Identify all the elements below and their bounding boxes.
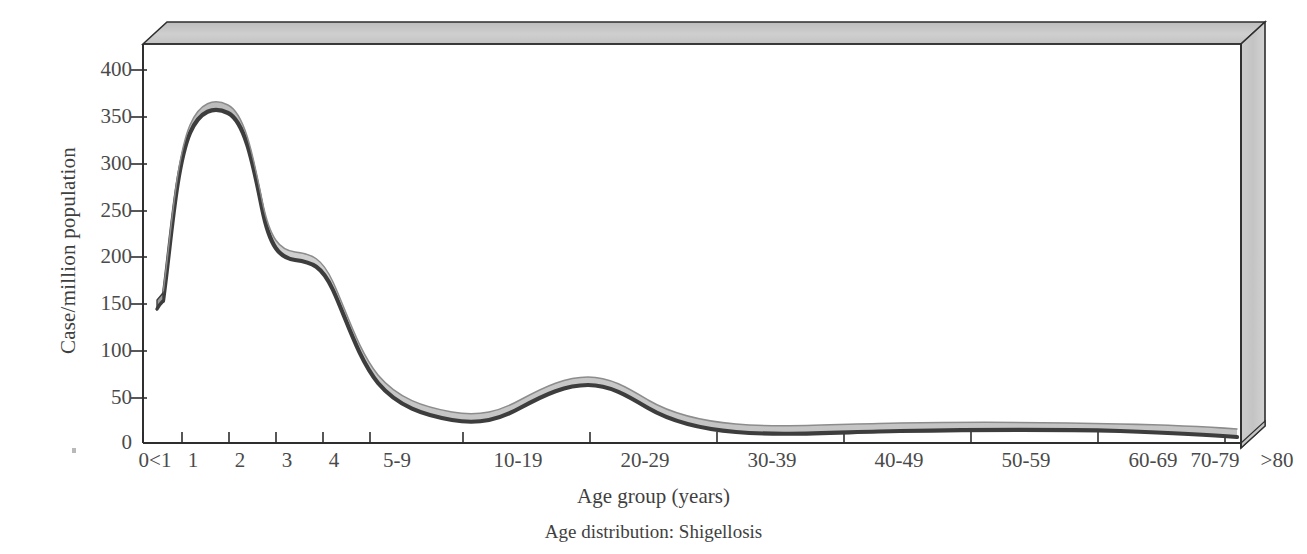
x-tick-label-50-59: 50-59 [1002, 450, 1051, 471]
x-axis-tick-label-group: 0<1 1 2 3 4 5-9 10-19 20-29 30-39 40-49 … [0, 0, 1307, 554]
x-tick-label-20-29: 20-29 [621, 450, 670, 471]
x-tick-label-5-9: 5-9 [383, 450, 411, 471]
x-tick-label-over80: >80 [1261, 450, 1294, 471]
scan-artifact-speck [72, 448, 76, 453]
x-axis-title: Age group (years) [0, 484, 1307, 509]
x-tick-label-30-39: 30-39 [748, 450, 797, 471]
x-tick-label-10-19: 10-19 [494, 450, 543, 471]
x-tick-label-2: 2 [235, 450, 246, 471]
figure-caption: Age distribution: Shigellosis [0, 521, 1307, 543]
x-tick-label-under1: 0<1 [139, 450, 172, 471]
chart-figure: Case/million population 400 350 300 250 … [0, 0, 1307, 554]
x-tick-label-4: 4 [329, 450, 340, 471]
x-tick-label-1: 1 [188, 450, 199, 471]
x-tick-label-70-79: 70-79 [1191, 450, 1240, 471]
x-tick-label-3: 3 [282, 450, 293, 471]
x-tick-label-40-49: 40-49 [875, 450, 924, 471]
x-tick-label-60-69: 60-69 [1129, 450, 1178, 471]
